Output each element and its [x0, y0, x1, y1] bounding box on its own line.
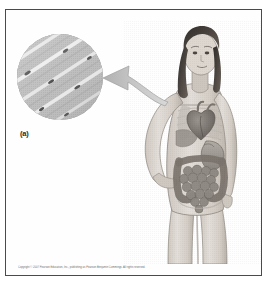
figure-root: (a) Copyright © 2007 Pearson Education, …: [0, 0, 269, 288]
histology-micrograph-inset: [17, 34, 103, 120]
figure-canvas: (a) Copyright © 2007 Pearson Education, …: [6, 10, 261, 275]
panel-label-a: (a): [20, 129, 29, 138]
figure-frame-border: (a) Copyright © 2007 Pearson Education, …: [5, 9, 262, 276]
copyright-notice: Copyright © 2007 Pearson Education, Inc.…: [18, 265, 233, 270]
magnification-callout-arrow: [98, 58, 170, 108]
